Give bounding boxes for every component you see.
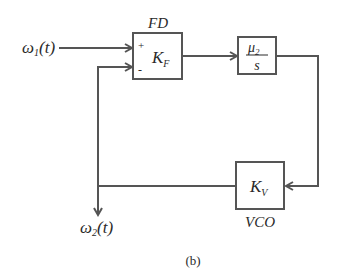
svg-text:ω1(t): ω1(t)	[22, 38, 55, 58]
pll-block-diagram: ω1(t) FD + - KF μ2 s KV VCO	[0, 0, 339, 280]
output-signal-label: ω2(t)	[80, 218, 113, 238]
plus-sign: +	[138, 39, 144, 51]
input-signal-label: ω1(t)	[22, 38, 55, 58]
integrator-denominator: s	[254, 58, 260, 73]
vco-block: KV VCO	[236, 162, 284, 230]
svg-text:ω2(t): ω2(t)	[80, 218, 113, 238]
feedback-arrow	[98, 67, 132, 186]
minus-sign: -	[138, 63, 142, 77]
fd-title: FD	[147, 15, 168, 31]
vco-title: VCO	[245, 214, 275, 230]
fd-block: FD + - KF	[133, 15, 182, 79]
integrator-block: μ2 s	[238, 37, 276, 74]
figure-caption: (b)	[185, 253, 200, 268]
